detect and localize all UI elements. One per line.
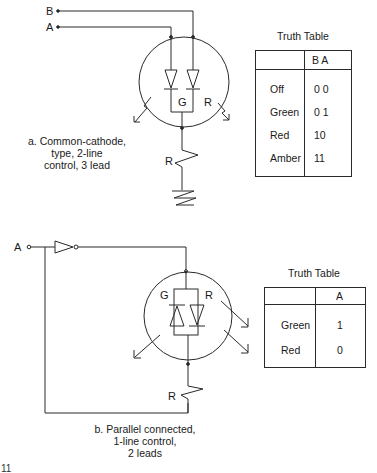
light-arrow-icon xyxy=(221,301,248,326)
tt-a-value: 0 1 xyxy=(314,106,329,118)
tt-a-state: Amber xyxy=(270,152,301,164)
terminal-a-open xyxy=(27,245,31,249)
truth-table-a-header: B A xyxy=(312,54,328,66)
truth-table-b: A Green 1 Red 0 xyxy=(264,287,366,368)
label-led-g-top: G xyxy=(178,96,187,108)
tt-a-value: 10 xyxy=(314,129,326,141)
caption-a: a. Common-cathode, type, 2-line control,… xyxy=(22,135,132,171)
label-resistor-top: R xyxy=(165,155,173,167)
label-input-a-bottom: A xyxy=(14,241,21,253)
label-led-g-bottom: G xyxy=(160,289,169,301)
truth-table-b-header: A xyxy=(336,290,343,302)
diode-red-icon xyxy=(190,305,204,325)
tt-a-value: 11 xyxy=(314,152,325,164)
tt-a-state: Red xyxy=(270,129,289,141)
tt-a-value: 0 0 xyxy=(314,83,329,95)
light-arrow-icon xyxy=(218,103,229,120)
resistor-top-icon xyxy=(175,128,198,190)
resistor-bottom-icon xyxy=(181,364,203,413)
label-led-r-top: R xyxy=(204,96,212,108)
tt-b-value: 0 xyxy=(337,344,343,356)
truth-table-a-title: Truth Table xyxy=(255,30,351,42)
label-input-a: A xyxy=(46,21,53,33)
label-led-r-bottom: R xyxy=(205,289,213,301)
tt-b-value: 1 xyxy=(337,319,343,331)
light-arrow-icon xyxy=(140,97,151,116)
light-arrow-icon xyxy=(224,330,248,352)
tt-a-state: Green xyxy=(270,106,299,118)
diode-green-icon xyxy=(165,70,177,88)
inverter-icon xyxy=(55,241,73,253)
wire-a xyxy=(58,27,171,37)
label-input-b: B xyxy=(46,5,53,17)
page-fragment: 11 xyxy=(1,463,11,473)
diode-green-icon xyxy=(170,306,184,326)
wire-b xyxy=(58,11,193,37)
led-package-outline xyxy=(139,37,229,127)
tt-a-state: Off xyxy=(270,83,284,95)
tt-b-state: Green xyxy=(281,319,310,331)
tt-b-state: Red xyxy=(281,344,300,356)
diode-red-icon xyxy=(187,70,199,88)
ground-icon xyxy=(172,191,196,205)
truth-table-a: B A Off 0 0 Green 0 1 Red 10 Amber 11 xyxy=(255,50,352,177)
bottom-circuit xyxy=(27,241,248,413)
caption-b: b. Parallel connected, 1-line control, 2… xyxy=(85,423,205,459)
label-resistor-bottom: R xyxy=(168,390,176,402)
truth-table-b-title: Truth Table xyxy=(263,267,365,279)
